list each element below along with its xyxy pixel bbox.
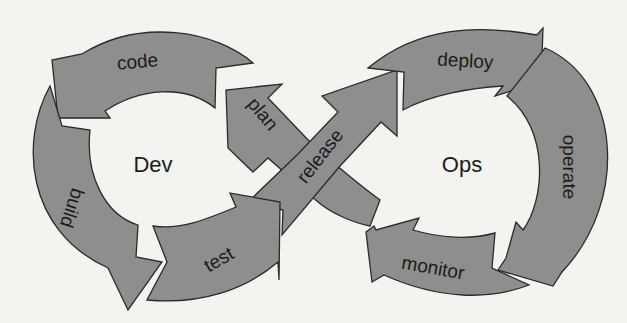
devops-diagram: code plan build test release deploy oper…: [0, 0, 627, 323]
deploy-label: deploy: [437, 49, 495, 73]
devops-infinity-svg: code plan build test release deploy oper…: [0, 0, 627, 323]
test-arrow: [147, 193, 280, 301]
dev-hub-label: Dev: [133, 152, 172, 177]
ops-hub-label: Ops: [442, 152, 482, 177]
operate-label: operate: [559, 135, 580, 199]
code-label: code: [116, 49, 159, 74]
build-arrow: [33, 86, 162, 310]
code-arrow: [52, 32, 253, 118]
monitor-arrow: [366, 218, 529, 295]
